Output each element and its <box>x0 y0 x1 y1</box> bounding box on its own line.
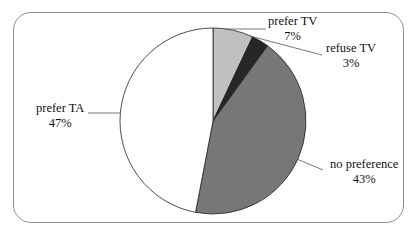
label-prefer-ta-pct: 47% <box>36 116 84 131</box>
label-prefer-tv: prefer TV 7% <box>268 14 317 44</box>
label-prefer-tv-name: prefer TV <box>268 14 317 29</box>
label-refuse-tv: refuse TV 3% <box>326 41 376 71</box>
label-no-preference-name: no preference <box>330 157 398 172</box>
slice-prefer-ta <box>120 28 213 212</box>
label-refuse-tv-name: refuse TV <box>326 41 376 56</box>
label-no-preference-pct: 43% <box>330 172 398 187</box>
label-prefer-tv-pct: 7% <box>268 29 317 44</box>
leader-line-no-preference <box>297 159 323 170</box>
label-refuse-tv-pct: 3% <box>326 56 376 71</box>
label-prefer-ta: prefer TA 47% <box>36 101 84 131</box>
label-prefer-ta-name: prefer TA <box>36 101 84 116</box>
label-no-preference: no preference 43% <box>330 157 398 187</box>
